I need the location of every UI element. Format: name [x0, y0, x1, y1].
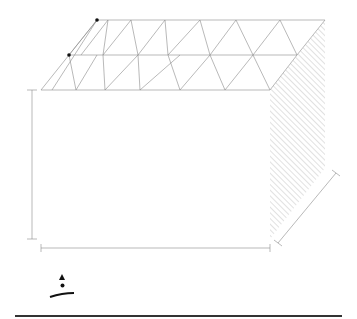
- legend-item: [48, 281, 76, 290]
- dot-icon: [48, 283, 76, 288]
- seepage-node: [95, 18, 99, 22]
- legend-item: [48, 272, 76, 281]
- seepage-node: [67, 53, 71, 57]
- legend-title: [48, 263, 76, 272]
- bottom-rule: [15, 315, 342, 317]
- side-face: [270, 20, 325, 239]
- legend-item: [48, 290, 76, 299]
- triangle-icon: [48, 274, 76, 280]
- curve-line-icon: [48, 292, 76, 298]
- legend: [48, 263, 76, 299]
